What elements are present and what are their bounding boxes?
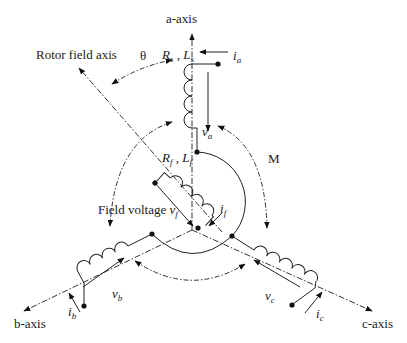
theta-arc (112, 60, 172, 84)
vc-label: vc (265, 288, 275, 305)
ic-label: ic (316, 306, 324, 323)
if-label: if (220, 201, 228, 218)
stator-params-label: Rs , Ls (161, 47, 194, 64)
theta-label: θ (140, 48, 146, 63)
ia-label: ia (233, 48, 242, 65)
ib-label: ib (68, 304, 77, 321)
va-label: va (202, 124, 213, 141)
field-terminal (195, 225, 200, 230)
mutual-label: M (268, 151, 280, 166)
field-params-label: Rf , Lf (161, 150, 193, 167)
neutral-arc-right (197, 152, 245, 236)
stator-winding-a (184, 61, 221, 154)
b-axis-label: b-axis (14, 316, 46, 331)
vb-label: vb (112, 286, 123, 303)
synchronous-machine-diagram: a-axis b-axis c-axis Rotor field axis θ … (0, 0, 407, 343)
c-axis (192, 230, 372, 311)
bc-arc (135, 261, 245, 280)
field-winding (151, 166, 218, 229)
field-voltage-label: Field voltage vf (98, 202, 179, 219)
b-axis (24, 230, 192, 311)
stator-winding-c (232, 236, 320, 308)
neutral-arc-bottom (152, 234, 232, 254)
vc-arrow (254, 260, 300, 287)
a-axis-label: a-axis (166, 11, 197, 26)
c-axis-label: c-axis (362, 316, 393, 331)
rotor-field-axis-label: Rotor field axis (36, 47, 117, 62)
